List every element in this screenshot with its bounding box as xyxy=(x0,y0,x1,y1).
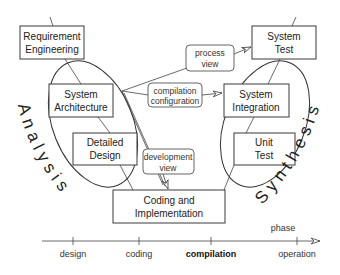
development-view-box: development view xyxy=(143,149,194,174)
system-architecture-label-1: System xyxy=(64,89,97,100)
process-view-box: process view xyxy=(186,45,234,71)
system-architecture-label-2: Architecture xyxy=(54,102,108,113)
requirement-engineering-label-1: Requirement xyxy=(23,31,80,42)
system-integration-label-2: Integration xyxy=(232,102,279,113)
detailed-design-label-1: Detailed xyxy=(87,137,124,148)
req-top-connector xyxy=(50,17,53,26)
system-architecture-box: System Architecture xyxy=(49,84,113,117)
system-test-label-1: System xyxy=(267,31,300,42)
detailed-design-label-2: Design xyxy=(89,150,120,161)
req-to-arch-line xyxy=(65,59,81,84)
unit-test-label-2: Test xyxy=(255,150,274,161)
design-to-coding-line xyxy=(120,165,133,190)
development-view-arrow xyxy=(163,174,168,189)
phase-axis-label: phase xyxy=(271,223,296,233)
arch-to-compilation-line xyxy=(122,91,148,95)
phase-tick-label-coding: coding xyxy=(126,249,153,259)
compilation-configuration-box: compilation configuration xyxy=(148,83,202,107)
v-model-diagram: Requirement Engineering System Architect… xyxy=(0,0,340,275)
system-test-label-2: Test xyxy=(275,44,294,55)
arch-to-design-line xyxy=(98,117,110,133)
system-test-box: System Test xyxy=(252,26,316,59)
requirement-engineering-label-2: Engineering xyxy=(25,44,78,55)
phase-tick-label-operation: operation xyxy=(278,249,316,259)
requirement-engineering-box: Requirement Engineering xyxy=(20,26,84,59)
process-view-label-2: view xyxy=(201,59,219,69)
coding-to-unittest-line xyxy=(224,165,234,190)
compilation-configuration-label-2: configuration xyxy=(151,96,200,106)
phase-tick-label-design: design xyxy=(60,249,87,259)
phase-ticks: designcodingcompilationoperation xyxy=(60,237,316,259)
coding-implementation-label-1: Coding and xyxy=(143,195,194,206)
unit-test-label-1: Unit xyxy=(255,137,273,148)
unittest-to-integration-line xyxy=(246,117,254,133)
phase-tick-label-compilation: compilation xyxy=(186,249,237,259)
compilation-configuration-label-1: compilation xyxy=(154,86,197,96)
system-integration-box: System Integration xyxy=(224,84,289,117)
development-view-label-1: development xyxy=(144,152,193,162)
systest-top-connector xyxy=(292,17,296,26)
system-integration-label-1: System xyxy=(239,89,272,100)
development-view-label-2: view xyxy=(159,163,177,173)
coding-implementation-box: Coding and Implementation xyxy=(113,190,225,223)
detailed-design-box: Detailed Design xyxy=(73,133,137,165)
process-view-label-1: process xyxy=(195,48,225,58)
process-view-arrow xyxy=(234,47,251,54)
coding-implementation-label-2: Implementation xyxy=(135,208,203,219)
compilation-arrow xyxy=(202,93,222,95)
